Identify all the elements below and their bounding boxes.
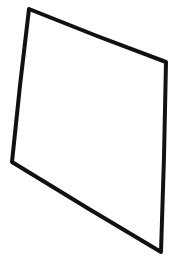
- drawing-canvas: [0, 0, 171, 263]
- quadrilateral-outline: [12, 9, 166, 252]
- quadrilateral-sketch: [0, 0, 171, 263]
